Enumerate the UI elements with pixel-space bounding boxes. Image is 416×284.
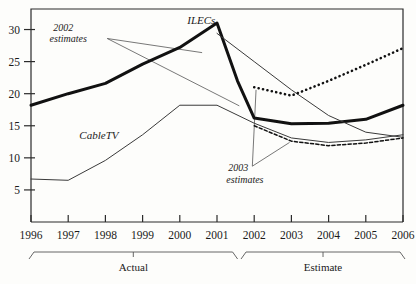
x-tick-label: 1997 <box>57 229 80 241</box>
line-chart: 51015202530 1996199719981999200020012002… <box>0 0 416 284</box>
x-tick-label: 2004 <box>317 229 340 241</box>
y-tick-label: 10 <box>9 152 21 164</box>
x-tick-label: 2006 <box>392 229 415 241</box>
x-tick-label: 2000 <box>168 229 191 241</box>
chart-container: 51015202530 1996199719981999200020012002… <box>0 0 416 284</box>
x-tick-label: 2003 <box>280 229 303 241</box>
x-tick-label: 1999 <box>131 229 154 241</box>
x-tick-label: 1996 <box>20 229 43 241</box>
cabletv-label: CableTV <box>79 129 119 141</box>
x-tick-label: 1998 <box>94 229 117 241</box>
estimates-2003-line1: 2003 <box>228 162 248 173</box>
y-tick-label: 15 <box>9 120 21 132</box>
x-tick-label: 2002 <box>243 229 266 241</box>
ilecs-label: ILECs <box>186 14 215 26</box>
x-axis-labels: 1996199719981999200020012002200320042005… <box>20 229 415 241</box>
y-tick-label: 20 <box>9 88 21 100</box>
actual-bracket-label: Actual <box>119 261 148 273</box>
y-tick-label: 25 <box>9 56 21 68</box>
x-tick-label: 2001 <box>206 229 229 241</box>
estimate-bracket-label: Estimate <box>304 261 343 273</box>
estimates-2003-line2: estimates <box>226 174 263 185</box>
estimates-2002-line1: 2002 <box>53 22 73 33</box>
y-tick-label: 5 <box>14 184 20 196</box>
y-tick-label: 30 <box>9 24 21 36</box>
x-tick-label: 2005 <box>354 229 377 241</box>
estimates-2002-line2: estimates <box>50 33 87 44</box>
